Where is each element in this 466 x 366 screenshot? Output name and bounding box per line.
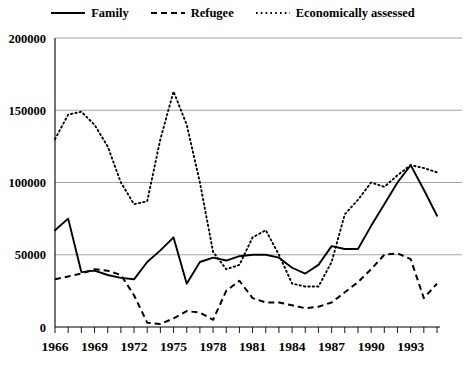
x-axis-tick-label: 1993 <box>397 339 424 354</box>
y-axis-tick-label: 100000 <box>9 176 47 190</box>
series-line-refugee <box>55 253 437 324</box>
x-axis-tick-labels: 1966196919721975197819811984198719901993 <box>42 339 425 354</box>
series-line-economically-assessed <box>55 91 437 286</box>
x-axis-tick-label: 1966 <box>42 339 69 354</box>
x-axis-tick-label: 1990 <box>358 339 385 354</box>
chart-svg: 050000100000150000200000 196619691972197… <box>0 0 466 366</box>
x-axis-tick-label: 1984 <box>279 339 306 354</box>
gridlines <box>55 38 462 255</box>
x-axis-tick-label: 1981 <box>239 339 266 354</box>
line-chart: Family Refugee Economically assessed 050… <box>0 0 466 366</box>
x-axis-tick-label: 1987 <box>318 339 345 354</box>
x-axis-tick-label: 1969 <box>81 339 108 354</box>
x-axis-tick-label: 1978 <box>200 339 227 354</box>
y-axis-tick-label: 200000 <box>9 32 47 46</box>
data-series <box>55 91 437 324</box>
y-axis-tick-label: 150000 <box>9 104 47 118</box>
x-axis-tick-label: 1972 <box>121 339 148 354</box>
y-axis-tick-label: 50000 <box>15 248 46 262</box>
x-axis-tick-label: 1975 <box>160 339 187 354</box>
x-axis-tickmarks <box>55 327 437 333</box>
y-axis-tick-label: 0 <box>40 321 46 335</box>
y-axis-tick-labels: 050000100000150000200000 <box>9 32 47 335</box>
plot-area: 050000100000150000200000 196619691972197… <box>0 0 466 366</box>
